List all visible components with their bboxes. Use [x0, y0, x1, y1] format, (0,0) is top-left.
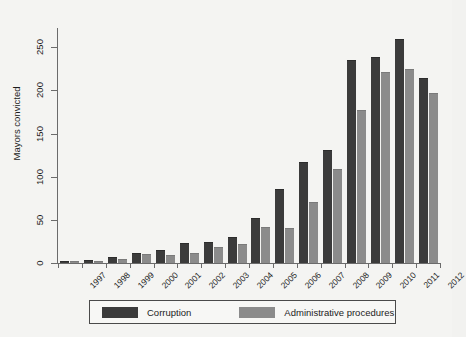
legend-entry-corruption: Corruption — [90, 301, 191, 323]
x-tick-mark — [368, 264, 369, 268]
legend-entry-administrative-procedures: Administrative procedures — [227, 301, 394, 323]
y-tick-label-text: 200 — [34, 82, 45, 98]
chart-legend: Corruption Administrative procedures — [89, 300, 396, 324]
x-tick-mark — [177, 264, 178, 268]
bar-corruption-2002 — [180, 243, 189, 263]
bar-corruption-2007 — [299, 162, 308, 263]
x-tick-mark — [345, 264, 346, 268]
y-tick-label-text: 100 — [34, 169, 45, 185]
y-tick-label-text: 0 — [34, 260, 45, 265]
x-tick-label-2000: 2000 — [159, 270, 179, 290]
y-tick-mark — [51, 90, 57, 91]
y-tick-label: 150 — [30, 129, 48, 139]
x-tick-label-2008: 2008 — [350, 270, 370, 290]
x-tick-mark — [106, 264, 107, 268]
bar-corruption-1999 — [108, 257, 117, 263]
bar-administrative-procedures-2004 — [238, 244, 247, 263]
y-tick-mark — [51, 47, 57, 48]
y-tick-mark — [51, 220, 57, 221]
x-tick-label-2010: 2010 — [398, 270, 418, 290]
x-tick-label-2005: 2005 — [278, 270, 298, 290]
x-tick-label-2004: 2004 — [255, 270, 275, 290]
bar-administrative-procedures-2010 — [381, 72, 390, 263]
bar-corruption-2001 — [156, 250, 165, 263]
bar-corruption-2005 — [251, 218, 260, 263]
bar-corruption-2009 — [347, 60, 356, 263]
bar-administrative-procedures-2003 — [214, 247, 223, 263]
legend-swatch-administrative-procedures — [239, 307, 275, 318]
x-tick-label-2012: 2012 — [446, 270, 466, 290]
y-tick-label-text: 50 — [34, 215, 45, 226]
bar-administrative-procedures-2000 — [142, 254, 151, 263]
bar-administrative-procedures-1998 — [94, 261, 103, 263]
x-tick-mark — [154, 264, 155, 268]
x-tick-mark — [58, 264, 59, 268]
x-tick-label-1998: 1998 — [111, 270, 131, 290]
plot-area — [58, 30, 440, 263]
bar-administrative-procedures-2002 — [190, 253, 199, 263]
x-tick-label-2007: 2007 — [326, 270, 346, 290]
bar-administrative-procedures-1999 — [118, 259, 127, 263]
x-tick-mark — [225, 264, 226, 268]
x-tick-label-2009: 2009 — [374, 270, 394, 290]
y-tick-mark — [51, 177, 57, 178]
x-tick-mark — [273, 264, 274, 268]
bar-administrative-procedures-2009 — [357, 110, 366, 263]
bar-administrative-procedures-2012 — [429, 93, 438, 263]
bar-administrative-procedures-1997 — [70, 261, 79, 263]
x-tick-label-2001: 2001 — [183, 270, 203, 290]
bar-corruption-1998 — [84, 260, 93, 263]
x-tick-mark — [392, 264, 393, 268]
x-tick-label-1999: 1999 — [135, 270, 155, 290]
y-tick-mark — [51, 263, 57, 264]
x-tick-label-2006: 2006 — [302, 270, 322, 290]
x-tick-mark — [249, 264, 250, 268]
y-tick-label: 100 — [30, 172, 48, 182]
y-tick-label-text: 250 — [34, 39, 45, 55]
bar-administrative-procedures-2011 — [405, 69, 414, 263]
y-axis-label: Mayors convicted — [11, 64, 22, 184]
bar-corruption-2012 — [419, 78, 428, 263]
x-tick-label-1997: 1997 — [87, 270, 107, 290]
bar-corruption-1997 — [60, 261, 69, 263]
bar-corruption-2006 — [275, 189, 284, 263]
bar-administrative-procedures-2008 — [333, 169, 342, 263]
bar-corruption-2000 — [132, 253, 141, 263]
y-tick-label: 0 — [30, 258, 48, 268]
bar-administrative-procedures-2006 — [285, 228, 294, 263]
y-tick-label: 200 — [30, 85, 48, 95]
bar-corruption-2008 — [323, 150, 332, 263]
x-tick-mark — [297, 264, 298, 268]
x-tick-mark — [82, 264, 83, 268]
y-tick-label: 250 — [30, 42, 48, 52]
x-tick-label-2003: 2003 — [231, 270, 251, 290]
legend-label-administrative-procedures: Administrative procedures — [284, 307, 394, 318]
x-tick-mark — [321, 264, 322, 268]
bar-corruption-2003 — [204, 242, 213, 263]
bar-corruption-2004 — [228, 237, 237, 263]
bar-administrative-procedures-2007 — [309, 202, 318, 263]
x-tick-mark — [201, 264, 202, 268]
y-tick-label-text: 150 — [34, 126, 45, 142]
bar-administrative-procedures-2001 — [166, 255, 175, 263]
legend-label-corruption: Corruption — [147, 307, 191, 318]
x-tick-label-2002: 2002 — [207, 270, 227, 290]
x-tick-mark — [440, 264, 441, 268]
x-tick-mark — [416, 264, 417, 268]
y-tick-mark — [51, 134, 57, 135]
legend-swatch-corruption — [102, 307, 138, 318]
x-tick-label-2011: 2011 — [422, 270, 442, 290]
x-tick-mark — [130, 264, 131, 268]
y-tick-label: 50 — [30, 215, 48, 225]
bar-administrative-procedures-2005 — [261, 227, 270, 263]
bar-corruption-2011 — [395, 39, 404, 263]
bar-corruption-2010 — [371, 57, 380, 263]
